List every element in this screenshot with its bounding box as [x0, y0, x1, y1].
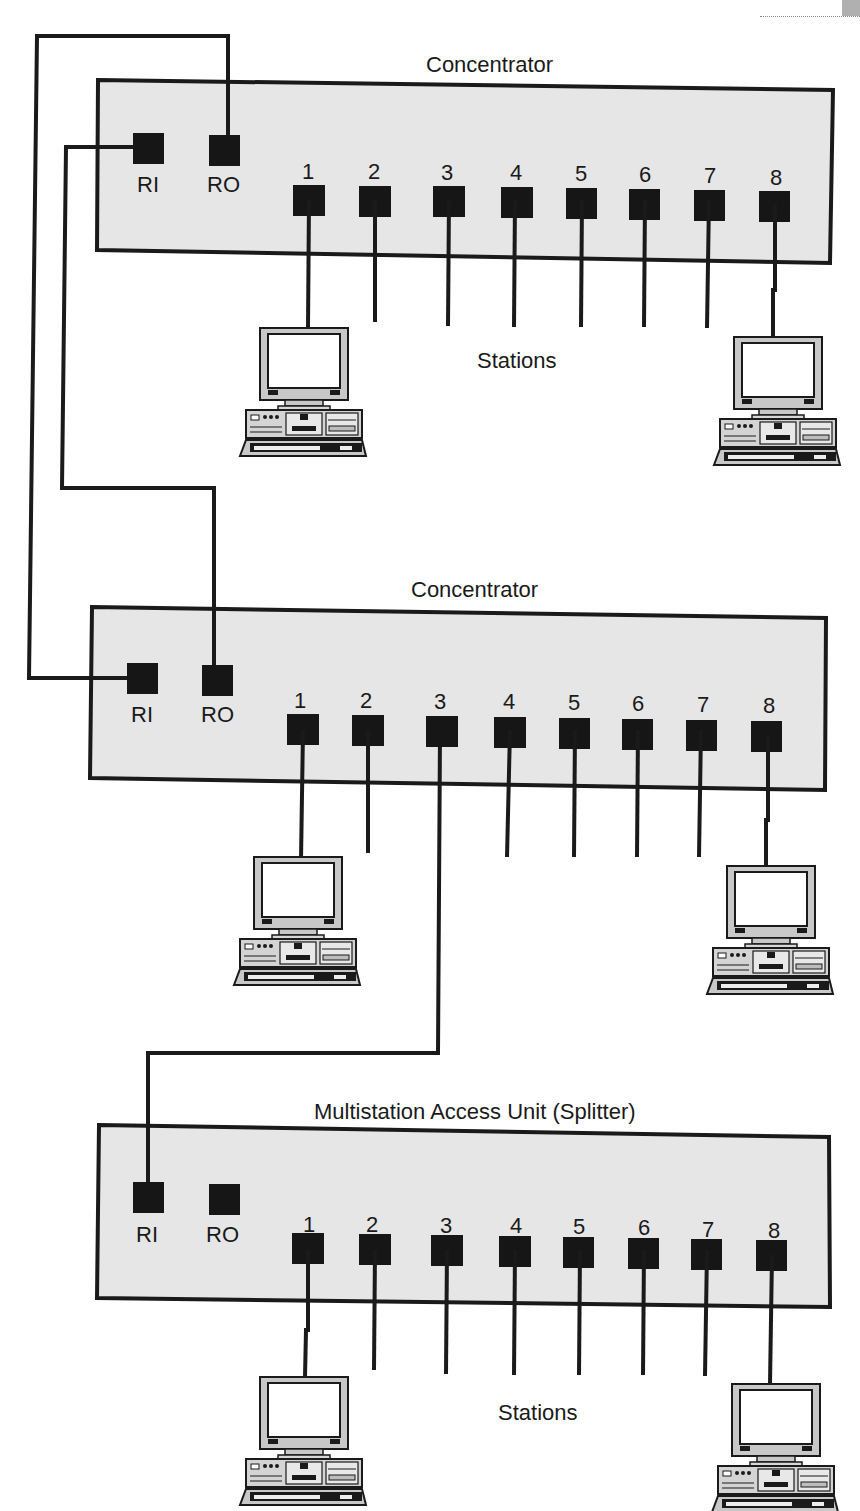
mau-box [97, 1125, 830, 1307]
mau-ri-port [133, 1182, 164, 1213]
c2-port-7-label: 7 [697, 694, 709, 716]
mau-port-6-label: 6 [638, 1217, 650, 1239]
c2-ro-label: RO [201, 704, 234, 726]
station-mau-port8 [712, 1384, 838, 1511]
c2-port-8-label: 8 [763, 695, 775, 717]
c2-port-5-label: 5 [568, 692, 580, 714]
mau-port-2-label: 2 [366, 1214, 378, 1236]
mau-port-8-label: 8 [768, 1220, 780, 1242]
station-c2-port1 [234, 857, 360, 985]
mau-port-7-label: 7 [702, 1219, 714, 1241]
c1-port-1-label: 1 [302, 161, 314, 183]
c1-ro-label: RO [207, 174, 240, 196]
station-mau-port1 [240, 1377, 366, 1505]
mau-ro-port [209, 1184, 240, 1215]
c1-port-8-label: 8 [770, 167, 782, 189]
c1-ro-port [209, 135, 240, 166]
c2-port-2-label: 2 [360, 690, 372, 712]
mau-port-4-label: 4 [510, 1215, 522, 1237]
c2-port-6-label: 6 [632, 693, 644, 715]
mau-title: Multistation Access Unit (Splitter) [314, 1101, 636, 1123]
station-c1-port1 [240, 328, 366, 456]
stations-label-bottom: Stations [498, 1402, 578, 1424]
c1-ri-label: RI [137, 174, 159, 196]
c2-port-3-label: 3 [434, 691, 446, 713]
c2-ri-port [127, 663, 158, 694]
concentrator-2-title: Concentrator [411, 579, 538, 601]
token-ring-diagram [0, 0, 860, 1511]
c1-port-5-label: 5 [575, 163, 587, 185]
stations-label-top: Stations [477, 350, 557, 372]
concentrator-1-title: Concentrator [426, 54, 553, 76]
c2-ro-port [202, 665, 233, 696]
mau-port-3-label: 3 [440, 1215, 452, 1237]
station-c2-port8 [707, 866, 833, 994]
mau-ri-label: RI [136, 1224, 158, 1246]
c1-port-6-label: 6 [639, 164, 651, 186]
c2-port-4-label: 4 [503, 691, 515, 713]
c1-port-3-label: 3 [441, 162, 453, 184]
c2-ri-label: RI [131, 704, 153, 726]
mau-port-1-label: 1 [303, 1214, 315, 1236]
concentrator-2-box [90, 607, 826, 790]
c1-port-4-label: 4 [510, 162, 522, 184]
mau-port-5-label: 5 [573, 1216, 585, 1238]
c1-ri-port [133, 133, 164, 164]
station-c1-port8 [714, 337, 840, 465]
mau-ro-label: RO [206, 1224, 239, 1246]
c1-port-2-label: 2 [368, 161, 380, 183]
c2-port-1-label: 1 [294, 690, 306, 712]
c1-port-7-label: 7 [704, 165, 716, 187]
